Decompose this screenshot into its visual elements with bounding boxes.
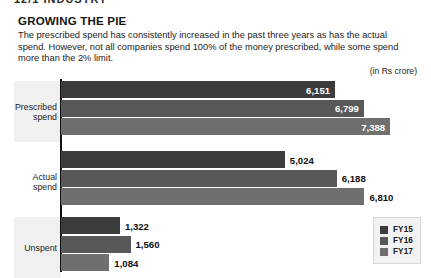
chart-plot-area: 6,1516,7997,3885,0246,1886,8101,3221,560… — [0, 79, 431, 272]
legend-item-fy17[interactable]: FY17 — [380, 247, 413, 256]
bar-fill — [61, 81, 335, 98]
bar-fill — [61, 170, 337, 187]
bar-fy15-unspent[interactable]: 1,322 — [61, 217, 120, 234]
bar-fill — [61, 188, 364, 205]
bar-fill — [61, 100, 364, 117]
bar-fy16-actual-spend[interactable]: 6,188 — [61, 170, 337, 187]
bar-value-label: 6,188 — [342, 173, 366, 184]
bar-value-label: 7,388 — [361, 121, 385, 132]
category-label: Prescribedspend — [14, 102, 57, 122]
bar-value-label: 1,560 — [136, 239, 160, 250]
bar-fill — [61, 118, 390, 135]
chart-legend: FY15FY16FY17 — [373, 217, 421, 264]
bar-fy15-actual-spend[interactable]: 5,024 — [61, 151, 285, 168]
bar-fill — [61, 151, 285, 168]
legend-swatch-icon — [380, 226, 388, 234]
chart-subtitle: The prescribed spend has consistently in… — [18, 30, 417, 65]
category-label: Unspent — [14, 243, 57, 253]
bar-fy16-prescribed-spend[interactable]: 6,799 — [61, 100, 364, 117]
bar-fill — [61, 217, 120, 234]
bar-value-label: 5,024 — [290, 154, 314, 165]
bar-value-label: 1,084 — [114, 257, 138, 268]
bar-fill — [61, 236, 131, 253]
bar-value-label: 6,151 — [306, 84, 330, 95]
bar-fy16-unspent[interactable]: 1,560 — [61, 236, 131, 253]
chart-figure: GROWING THE PIE The prescribed spend has… — [0, 9, 431, 272]
clipped-page-header: 12/1 INDUSTRY — [0, 0, 431, 9]
bar-fy15-prescribed-spend[interactable]: 6,151 — [61, 81, 335, 98]
chart-units-label: (in Rs crore) — [370, 66, 417, 76]
bar-fy17-prescribed-spend[interactable]: 7,388 — [61, 118, 390, 135]
chart-title: GROWING THE PIE — [18, 15, 126, 27]
category-label: Actualspend — [14, 172, 57, 192]
bar-fill — [61, 254, 109, 271]
legend-item-fy16[interactable]: FY16 — [380, 236, 413, 245]
legend-swatch-icon — [380, 248, 388, 256]
legend-label: FY15 — [393, 225, 413, 234]
bar-fy17-actual-spend[interactable]: 6,810 — [61, 188, 364, 205]
bar-value-label: 1,322 — [125, 220, 149, 231]
bar-value-label: 6,799 — [335, 103, 359, 114]
bar-fy17-unspent[interactable]: 1,084 — [61, 254, 109, 271]
legend-label: FY17 — [393, 247, 413, 256]
legend-swatch-icon — [380, 237, 388, 245]
legend-label: FY16 — [393, 236, 413, 245]
legend-item-fy15[interactable]: FY15 — [380, 225, 413, 234]
clipped-page-header-text: 12/1 INDUSTRY — [14, 0, 107, 5]
bar-value-label: 6,810 — [369, 191, 393, 202]
